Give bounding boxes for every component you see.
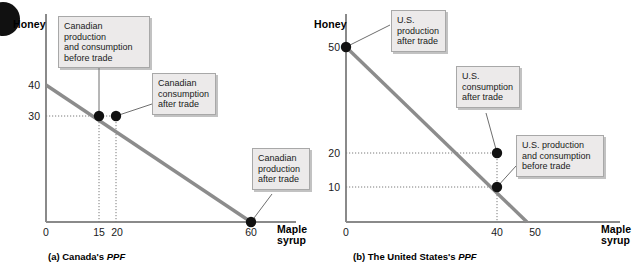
y-axis-title: Honey xyxy=(13,19,46,30)
y-tick-30: 30 xyxy=(18,110,40,122)
x-tick-15: 15 xyxy=(89,226,109,238)
point-before-trade[interactable] xyxy=(94,111,104,121)
panel-caption-canada-italic: PPF xyxy=(107,251,125,262)
leader-consumption-after xyxy=(486,113,497,153)
panel-caption-us-prefix: (b) The United States's xyxy=(353,251,458,262)
chart-panel-united-states: Honey Maple syrup 50 20 10 0 40 50 U.S. … xyxy=(320,0,640,272)
callout-canadian-production-consumption-before-trade: Canadian production and consumption befo… xyxy=(58,16,150,68)
callout-canadian-production-after-trade: Canadian production after trade xyxy=(252,148,310,190)
callout-us-consumption-after-trade: U.S. consumption after trade xyxy=(456,66,520,108)
x-tick-40: 40 xyxy=(487,226,507,238)
figure-root: Honey Maple syrup 40 30 0 15 20 60 Canad… xyxy=(0,0,640,272)
panel-caption-canada: (a) Canada's PPF xyxy=(48,251,125,262)
y-tick-50: 50 xyxy=(318,41,340,53)
leader-consumption-after xyxy=(116,104,152,116)
x-tick-60: 60 xyxy=(241,226,261,238)
callout-us-production-after-trade: U.S. production after trade xyxy=(391,10,446,52)
y-tick-20: 20 xyxy=(318,147,340,159)
callout-canadian-consumption-after-trade: Canadian consumption after trade xyxy=(152,73,216,115)
chart-panel-canada: Honey Maple syrup 40 30 0 15 20 60 Canad… xyxy=(0,0,320,272)
x-tick-0: 0 xyxy=(336,226,356,238)
x-axis-title: Maple syrup xyxy=(277,224,307,246)
panel-caption-canada-prefix: (a) Canada's xyxy=(48,251,107,262)
y-tick-10: 10 xyxy=(318,181,340,193)
point-consumption-after-trade[interactable] xyxy=(492,148,502,158)
x-tick-0: 0 xyxy=(36,226,56,238)
panel-caption-us: (b) The United States's PPF xyxy=(353,251,477,262)
callout-us-production-consumption-before-trade: U.S. production and consumption before t… xyxy=(516,135,604,177)
point-consumption-after-trade[interactable] xyxy=(111,111,121,121)
x-tick-20: 20 xyxy=(107,226,127,238)
x-tick-50: 50 xyxy=(525,226,545,238)
point-before-trade[interactable] xyxy=(492,182,502,192)
y-axis-title: Honey xyxy=(314,19,347,30)
leader-production-after xyxy=(346,25,390,47)
x-axis-title: Maple syrup xyxy=(601,224,631,246)
y-tick-40: 40 xyxy=(18,79,40,91)
point-production-after-trade[interactable] xyxy=(341,42,351,52)
panel-caption-us-italic: PPF xyxy=(458,251,476,262)
leader-production-after xyxy=(251,194,272,222)
